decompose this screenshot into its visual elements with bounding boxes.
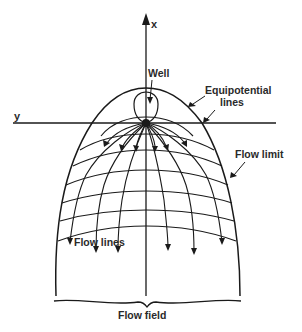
- equipotential-label-line2: lines: [220, 97, 244, 108]
- equipotential-line-6: [60, 210, 234, 221]
- equipotential-line-4: [66, 170, 228, 185]
- well-leader-arrowhead-icon: [147, 97, 153, 104]
- x-axis-arrowhead-icon: [142, 13, 150, 25]
- x-axis-label: x: [151, 19, 157, 30]
- y-axis-label: y: [14, 111, 20, 122]
- flow-limit-label: Flow limit: [235, 149, 283, 160]
- equipotential-line-2: [80, 134, 214, 150]
- arrow-icon: [67, 238, 73, 245]
- flow-net-diagram: [0, 0, 302, 332]
- equipotential-line-3: [73, 150, 222, 166]
- flow-lines-label: Flow lines: [74, 237, 125, 248]
- flow-limit-leader: [234, 162, 245, 175]
- equipotential-line-5: [62, 191, 232, 203]
- well-point: [142, 119, 150, 127]
- equipotential-leader-1: [193, 96, 205, 104]
- arrow-icon: [191, 248, 197, 255]
- arrow-icon: [152, 146, 158, 152]
- arrow-icon: [219, 238, 225, 245]
- equipotential-leader-2-arrowhead-icon: [203, 117, 210, 123]
- flow-line-left-6: [118, 123, 146, 250]
- equipotential-leader-2: [207, 110, 215, 119]
- flow-field-brace: [54, 300, 241, 307]
- flow-line-right-2: [146, 123, 222, 242]
- well-label: Well: [148, 68, 169, 79]
- flow-field-label: Flow field: [118, 310, 166, 321]
- arrow-icon: [165, 244, 171, 251]
- equipotential-label-line1: Equipotential: [205, 85, 272, 96]
- flow-line-right-6: [146, 123, 168, 248]
